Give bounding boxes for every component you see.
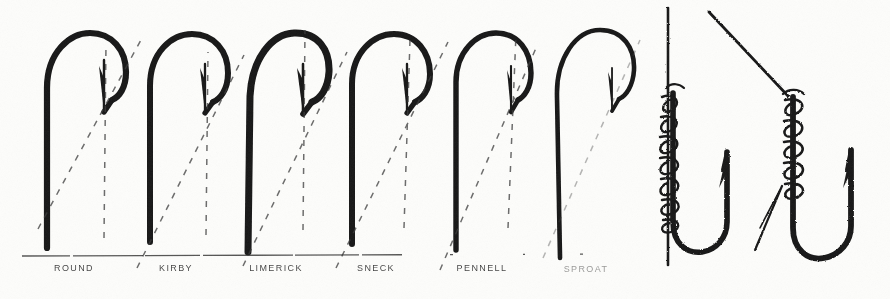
hook-label-pennell: PENNELL (438, 263, 526, 274)
hook-illustration (0, 0, 890, 299)
hook-label-round: ROUND (38, 263, 110, 274)
hook-label-sproat: SPROAT (548, 264, 624, 275)
paper-grain-overlay (0, 0, 890, 299)
hook-label-limerick: LIMERICK (232, 263, 320, 274)
hook-label-sneck: SNECK (340, 263, 412, 274)
figure-canvas: ROUND KIRBY LIMERICK SNECK PENNELL SPROA… (0, 0, 890, 299)
hook-label-kirby: KIRBY (140, 263, 212, 274)
